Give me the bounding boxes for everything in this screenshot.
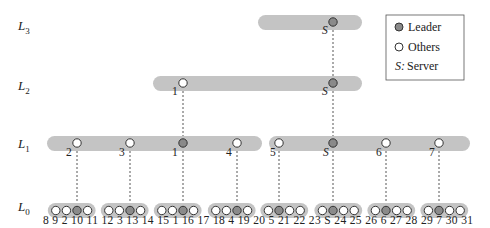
node-label: 2 bbox=[66, 146, 72, 158]
legend: Leader Others S: Server bbox=[386, 15, 464, 80]
other-node bbox=[435, 139, 443, 147]
other-node bbox=[233, 139, 241, 147]
other-node bbox=[179, 79, 187, 87]
level-1-cluster-left: 2 3 1 4 bbox=[47, 136, 262, 158]
node-label: 3 bbox=[119, 146, 125, 158]
cluster-bar bbox=[258, 15, 362, 30]
level-2-cluster: 1 S bbox=[153, 76, 362, 97]
node-label: 1 bbox=[172, 85, 178, 97]
leader-node bbox=[179, 139, 187, 147]
leader-node bbox=[329, 139, 337, 147]
node-label: 7 bbox=[429, 146, 435, 158]
legend-others-label: Others bbox=[408, 40, 440, 54]
leader-node bbox=[329, 18, 337, 26]
other-node bbox=[73, 139, 81, 147]
other-node bbox=[275, 139, 283, 147]
other-node bbox=[382, 139, 390, 147]
node-label: S bbox=[323, 146, 329, 158]
level-label-l2: L2 bbox=[17, 78, 30, 96]
level-0-node-labels: 8 9 2 10 11 12 3 13 14 15 1 16 17 18 4 1… bbox=[43, 214, 473, 226]
node-label: 6 bbox=[376, 146, 382, 158]
level-1-cluster-right: 5 S 6 7 bbox=[269, 136, 470, 158]
level-0-clusters: 8 9 2 10 11 12 3 13 14 15 1 16 17 18 4 1… bbox=[43, 203, 473, 226]
legend-server-label: Server bbox=[407, 59, 438, 73]
node-label: S bbox=[322, 24, 328, 36]
node-label: S bbox=[322, 85, 328, 97]
node-label: 5 bbox=[270, 146, 276, 158]
legend-leader-label: Leader bbox=[408, 20, 441, 34]
leader-node bbox=[329, 79, 337, 87]
node-label: 4 bbox=[226, 146, 232, 158]
level-label-l3: L3 bbox=[17, 18, 30, 36]
node-label: 1 bbox=[172, 146, 178, 158]
legend-others-icon bbox=[395, 43, 403, 51]
connectors bbox=[77, 22, 439, 210]
legend-server-key: S: bbox=[395, 59, 405, 73]
hierarchy-diagram: L3 L2 L1 L0 S 1 S 2 3 1 bbox=[0, 0, 490, 228]
level-label-l0: L0 bbox=[17, 199, 30, 217]
legend-leader-icon bbox=[395, 23, 403, 31]
level-label-l1: L1 bbox=[17, 136, 30, 154]
other-node bbox=[126, 139, 134, 147]
level-3-cluster: S bbox=[258, 15, 362, 36]
